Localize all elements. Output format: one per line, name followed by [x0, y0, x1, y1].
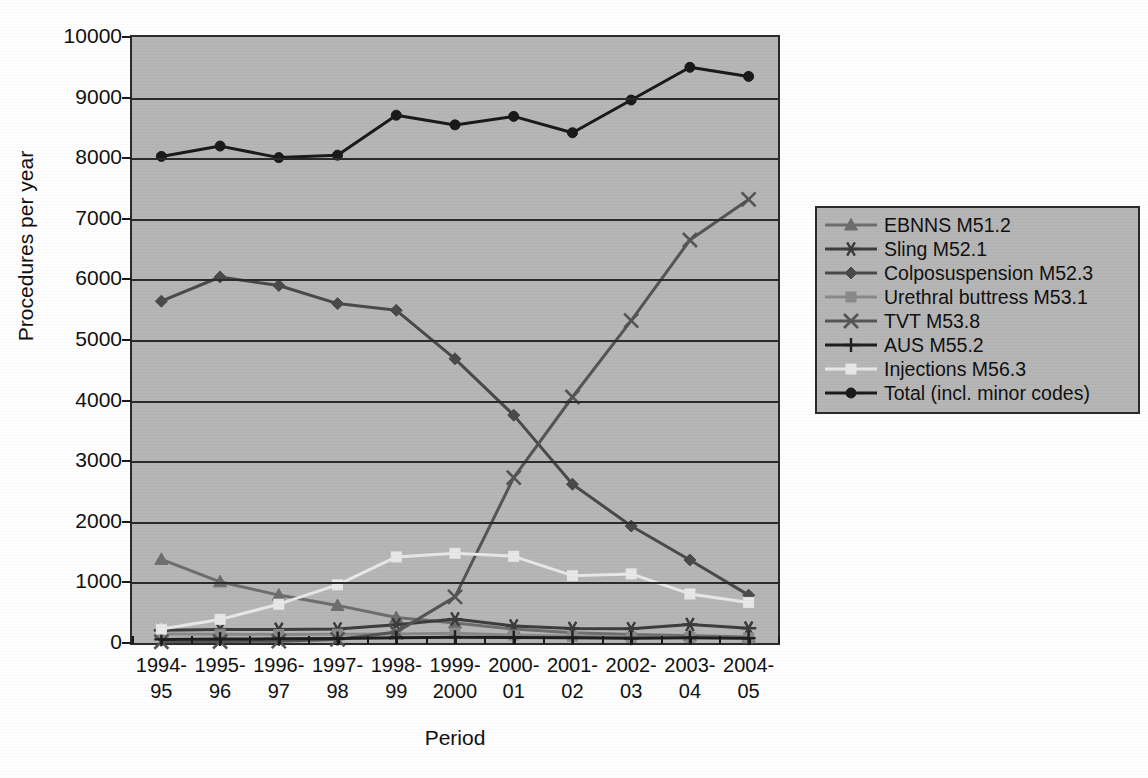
scan-texture — [0, 183, 1148, 184]
scan-texture — [0, 663, 1148, 664]
scan-texture — [0, 501, 1148, 502]
scan-texture — [0, 174, 1148, 175]
scan-texture — [0, 618, 1148, 619]
scan-texture — [0, 84, 1148, 85]
scan-texture — [0, 573, 1148, 574]
scan-texture — [0, 357, 1148, 358]
scan-texture — [0, 537, 1148, 538]
scan-texture — [0, 609, 1148, 610]
scan-texture — [0, 591, 1148, 592]
scan-texture — [0, 30, 1148, 31]
scan-texture — [0, 768, 1148, 769]
scan-texture — [0, 594, 1148, 595]
scan-texture — [0, 288, 1148, 289]
scan-texture — [0, 642, 1148, 643]
scan-texture — [0, 603, 1148, 604]
scan-texture — [0, 198, 1148, 199]
scan-texture — [0, 66, 1148, 67]
scan-texture — [0, 402, 1148, 403]
scan-texture — [0, 576, 1148, 577]
scan-texture — [0, 231, 1148, 232]
scan-texture — [0, 213, 1148, 214]
scan-texture — [0, 393, 1148, 394]
scan-texture — [0, 210, 1148, 211]
scan-texture — [0, 756, 1148, 757]
scan-texture — [0, 498, 1148, 499]
scan-texture — [0, 471, 1148, 472]
scan-texture — [0, 177, 1148, 178]
scan-texture — [0, 189, 1148, 190]
scan-texture — [0, 720, 1148, 721]
scan-texture — [0, 363, 1148, 364]
scan-texture — [0, 255, 1148, 256]
scan-texture — [0, 504, 1148, 505]
scan-texture — [0, 267, 1148, 268]
scan-texture — [0, 123, 1148, 124]
scan-texture — [0, 672, 1148, 673]
scan-texture — [0, 669, 1148, 670]
scan-texture — [0, 480, 1148, 481]
scan-texture — [0, 129, 1148, 130]
scan-texture — [0, 597, 1148, 598]
scan-texture — [0, 141, 1148, 142]
scan-texture — [0, 699, 1148, 700]
chart-container: Procedures per year 10000900080007000600… — [0, 0, 1148, 778]
scan-texture — [0, 342, 1148, 343]
scan-texture — [0, 621, 1148, 622]
scan-texture — [0, 456, 1148, 457]
scan-texture — [0, 390, 1148, 391]
scan-texture — [0, 303, 1148, 304]
scan-texture — [0, 570, 1148, 571]
scan-texture — [0, 150, 1148, 151]
scan-texture — [0, 399, 1148, 400]
scan-texture — [0, 441, 1148, 442]
scan-texture — [0, 417, 1148, 418]
scan-texture — [0, 201, 1148, 202]
scan-texture — [0, 516, 1148, 517]
scan-texture — [0, 117, 1148, 118]
scan-texture — [0, 75, 1148, 76]
scan-texture — [0, 633, 1148, 634]
scan-texture — [0, 627, 1148, 628]
scan-texture — [0, 21, 1148, 22]
scan-texture — [0, 69, 1148, 70]
scan-texture — [0, 297, 1148, 298]
scan-texture — [0, 759, 1148, 760]
scan-texture — [0, 714, 1148, 715]
scan-texture — [0, 114, 1148, 115]
scan-texture — [0, 732, 1148, 733]
scan-texture — [0, 702, 1148, 703]
scan-texture — [0, 558, 1148, 559]
scan-texture — [0, 264, 1148, 265]
scan-texture — [0, 12, 1148, 13]
scan-texture — [0, 147, 1148, 148]
scan-texture — [0, 156, 1148, 157]
scan-texture — [0, 327, 1148, 328]
scan-texture — [0, 63, 1148, 64]
scan-texture — [0, 411, 1148, 412]
scan-texture — [0, 453, 1148, 454]
scan-texture — [0, 645, 1148, 646]
scan-texture — [0, 612, 1148, 613]
scan-texture — [0, 717, 1148, 718]
scan-texture — [0, 15, 1148, 16]
scan-texture — [0, 450, 1148, 451]
scan-texture — [0, 186, 1148, 187]
scan-texture — [0, 225, 1148, 226]
scan-texture — [0, 579, 1148, 580]
scan-texture — [0, 135, 1148, 136]
scan-texture — [0, 192, 1148, 193]
scan-texture — [0, 204, 1148, 205]
scan-texture — [0, 723, 1148, 724]
scan-texture — [0, 207, 1148, 208]
scan-texture — [0, 99, 1148, 100]
scan-texture — [0, 681, 1148, 682]
scan-texture — [0, 522, 1148, 523]
scan-texture — [0, 414, 1148, 415]
scan-texture — [0, 552, 1148, 553]
scan-texture — [0, 93, 1148, 94]
scan-texture — [0, 492, 1148, 493]
scan-texture — [0, 309, 1148, 310]
scan-texture — [0, 489, 1148, 490]
scan-texture — [0, 315, 1148, 316]
